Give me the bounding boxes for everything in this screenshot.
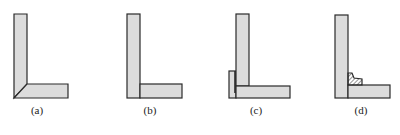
label-b: (b) xyxy=(135,104,165,116)
panel-c-shape xyxy=(229,14,290,98)
label-d: (d) xyxy=(346,104,376,116)
diagram-canvas: (a) (b) (c) (d) xyxy=(0,0,400,135)
panel-a-shape xyxy=(14,14,68,98)
label-a: (a) xyxy=(22,104,52,116)
panel-b-shape xyxy=(127,14,182,98)
panel-d-shape xyxy=(335,15,390,98)
label-c: (c) xyxy=(241,104,271,116)
joint-diagrams xyxy=(0,0,400,135)
